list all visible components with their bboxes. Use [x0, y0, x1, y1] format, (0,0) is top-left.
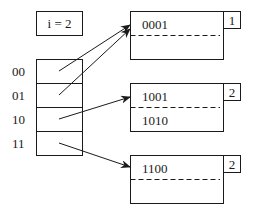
directory-label-01: 01	[12, 88, 25, 103]
extendible-hashing-diagram: i = 2 00 01 10 11 1 0001 2 1001 1010	[0, 0, 255, 215]
bucket-record: 1010	[142, 113, 168, 128]
bucket-2: 2 1001 1010	[131, 84, 241, 132]
global-depth-box: i = 2	[37, 12, 83, 36]
local-depth-label: 1	[229, 13, 236, 28]
directory-pointers	[59, 25, 130, 167]
global-depth-label: i = 2	[48, 16, 72, 31]
directory-label-00: 00	[12, 64, 25, 79]
pointer-arrow-01	[59, 29, 130, 95]
bucket-record: 1001	[142, 89, 168, 104]
directory-label-11: 11	[12, 136, 25, 151]
directory: 00 01 10 11	[12, 60, 83, 156]
bucket-1: 1 0001	[131, 12, 241, 60]
local-depth-label: 2	[229, 85, 236, 100]
directory-label-10: 10	[12, 112, 25, 127]
pointer-arrow-00	[59, 25, 130, 71]
local-depth-label: 2	[229, 157, 236, 172]
bucket-record: 1100	[142, 161, 168, 176]
bucket-record: 0001	[142, 17, 168, 32]
bucket-3: 2 1100	[131, 156, 241, 204]
